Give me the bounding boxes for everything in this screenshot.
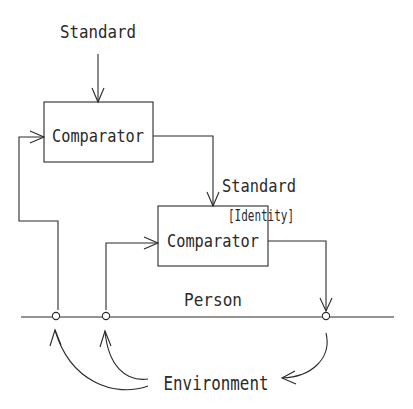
person-label: Person bbox=[184, 290, 242, 310]
environment-label: Environment bbox=[164, 372, 269, 394]
environment-curve-1 bbox=[55, 330, 148, 390]
lower-output-line bbox=[268, 241, 326, 311]
lower-comparator-label: Comparator bbox=[167, 231, 259, 251]
control-diagram: Standard Comparator Standard [Identity] … bbox=[0, 0, 413, 409]
top-output-line bbox=[153, 136, 213, 206]
output-node bbox=[322, 312, 329, 319]
perception-line-top bbox=[19, 137, 58, 310]
perception-line-lower bbox=[106, 243, 158, 310]
identity-label: [Identity] bbox=[228, 206, 294, 225]
top-comparator-label: Comparator bbox=[52, 126, 144, 146]
environment-curve-3 bbox=[282, 333, 327, 378]
input-node-1 bbox=[52, 312, 59, 319]
top-standard-label: Standard bbox=[60, 22, 136, 42]
input-node-2 bbox=[102, 312, 109, 319]
mid-standard-label: Standard bbox=[222, 176, 296, 196]
environment-curve-2 bbox=[105, 331, 148, 379]
